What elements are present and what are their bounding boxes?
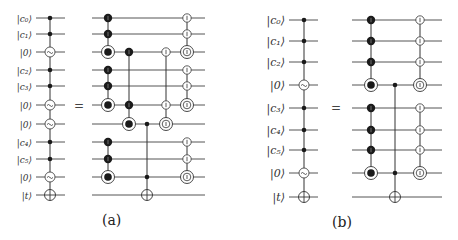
control-dot-icon	[302, 60, 307, 65]
wire-label: |c₄⟩	[266, 124, 285, 138]
panel-a: |c₀⟩|c₁⟩|0⟩|c₂⟩|c₃⟩|0⟩|0⟩|c₄⟩|c₅⟩|0⟩|t⟩ …	[17, 14, 205, 229]
panel-b-rhs-circuit	[352, 16, 442, 203]
wire-label: |0⟩	[270, 167, 285, 181]
wire-label: |c₀⟩	[17, 14, 32, 25]
control-dot-icon	[145, 122, 150, 127]
wire-label: |c₀⟩	[266, 14, 285, 28]
wire-label: |t⟩	[22, 191, 32, 202]
wire-label: |c₃⟩	[266, 102, 285, 116]
panel-b-equals-sign: =	[331, 101, 341, 115]
panel-b: |c₀⟩|c₁⟩|c₂⟩|0⟩|c₃⟩|c₄⟩|c₅⟩|0⟩|t⟩ = (b)	[266, 14, 442, 231]
control-dot-icon	[302, 148, 307, 153]
wire-label: |c₂⟩	[266, 56, 285, 70]
panel-b-lhs-wire-labels: |c₀⟩|c₁⟩|c₂⟩|0⟩|c₃⟩|c₄⟩|c₅⟩|0⟩|t⟩	[266, 14, 285, 205]
wire-label: |0⟩	[20, 101, 32, 112]
control-dot-icon	[302, 18, 307, 23]
control-dot-icon	[48, 32, 53, 37]
wire-label: |0⟩	[270, 79, 285, 93]
panel-a-lhs-circuit	[36, 16, 65, 201]
panel-b-caption: (b)	[332, 214, 352, 230]
control-dot-icon	[48, 157, 53, 162]
panel-a-lhs-wire-labels: |c₀⟩|c₁⟩|0⟩|c₂⟩|c₃⟩|0⟩|0⟩|c₄⟩|c₅⟩|0⟩|t⟩	[17, 14, 32, 202]
panel-a-equals-sign: =	[74, 99, 84, 113]
quantum-circuit-diagram: |c₀⟩|c₁⟩|0⟩|c₂⟩|c₃⟩|0⟩|0⟩|c₄⟩|c₅⟩|0⟩|t⟩ …	[0, 0, 458, 240]
wire-label: |0⟩	[20, 120, 32, 131]
control-dot-icon	[302, 106, 307, 111]
control-dot-icon	[48, 68, 53, 73]
wire-label: |c₂⟩	[17, 66, 32, 77]
control-dot-icon	[48, 16, 53, 21]
wire-label: |c₁⟩	[266, 35, 285, 49]
panel-b-lhs-circuit	[289, 18, 318, 203]
control-dot-icon	[302, 39, 307, 44]
control-dot-icon	[393, 171, 398, 176]
wire-label: |t⟩	[273, 191, 285, 205]
wire-label: |c₃⟩	[17, 82, 32, 93]
wire-label: |0⟩	[20, 48, 32, 59]
wire-label: |c₄⟩	[17, 138, 32, 149]
control-dot-icon	[145, 175, 150, 180]
control-dot-icon	[302, 128, 307, 133]
wire-label: |c₅⟩	[266, 144, 285, 158]
control-dot-icon	[48, 84, 53, 89]
wire-label: |0⟩	[20, 173, 32, 184]
panel-a-rhs-circuit	[92, 14, 205, 201]
wire-label: |c₁⟩	[17, 30, 32, 41]
panel-a-caption: (a)	[102, 212, 121, 228]
wire-label: |c₅⟩	[17, 155, 32, 166]
control-dot-icon	[393, 83, 398, 88]
control-dot-icon	[48, 140, 53, 145]
